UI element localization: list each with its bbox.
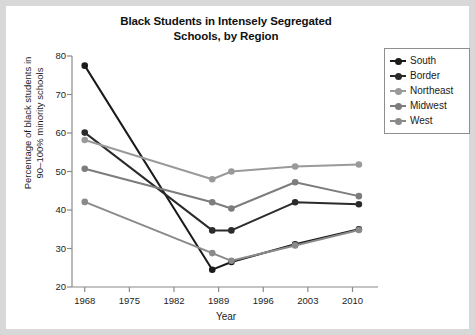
data-point xyxy=(292,179,299,186)
data-point xyxy=(356,161,363,168)
x-axis-tick-label: 1996 xyxy=(243,295,283,306)
data-point xyxy=(356,201,363,208)
y-axis-tick-label: 60 xyxy=(44,127,66,138)
data-point xyxy=(228,258,235,265)
data-point xyxy=(209,227,216,234)
legend-marker-icon xyxy=(390,85,406,97)
legend-item-label: Border xyxy=(410,70,440,82)
data-point xyxy=(292,199,299,206)
y-axis-label: Percentage of black students in 90–100% … xyxy=(22,33,46,213)
axes xyxy=(72,56,378,287)
data-point xyxy=(209,250,216,257)
x-axis-tick-label: 1989 xyxy=(199,295,239,306)
legend-marker-icon xyxy=(390,100,406,112)
y-axis-tick-label: 50 xyxy=(44,166,66,177)
legend-item-midwest[interactable]: Midwest xyxy=(390,99,465,113)
legend-item-label: West xyxy=(410,115,433,127)
x-axis-ticks xyxy=(85,287,353,292)
data-point xyxy=(292,163,299,170)
legend-item-label: Midwest xyxy=(410,100,447,112)
data-series-group xyxy=(81,62,362,273)
y-axis-tick-label: 20 xyxy=(44,281,66,292)
legend-item-south[interactable]: South xyxy=(390,54,465,68)
series-midwest xyxy=(81,166,362,212)
y-axis-tick-label: 30 xyxy=(44,243,66,254)
series-northeast xyxy=(81,137,362,183)
data-point xyxy=(81,137,88,144)
y-axis-ticks xyxy=(67,56,72,287)
chart-figure: Black Students in Intensely Segregated S… xyxy=(6,6,469,329)
x-axis-tick-label: 1982 xyxy=(154,295,194,306)
y-axis-tick-label: 40 xyxy=(44,204,66,215)
legend-item-northeast[interactable]: Northeast xyxy=(390,84,465,98)
legend-item-label: South xyxy=(410,55,436,67)
y-axis-label-line-2: 90–100% minority schools xyxy=(34,68,45,179)
data-point xyxy=(81,199,88,206)
legend-item-label: Northeast xyxy=(410,85,453,97)
x-axis-tick-label: 2010 xyxy=(333,295,373,306)
x-axis-label: Year xyxy=(66,311,386,322)
data-point xyxy=(209,176,216,183)
x-axis-tick-label: 1975 xyxy=(109,295,149,306)
data-point xyxy=(292,242,299,249)
data-point xyxy=(356,227,363,234)
legend-item-west[interactable]: West xyxy=(390,114,465,128)
series-line xyxy=(85,140,359,179)
series-south xyxy=(81,62,362,273)
x-axis-tick-label: 2003 xyxy=(288,295,328,306)
x-axis-tick-label: 1968 xyxy=(65,295,105,306)
chart-legend: SouthBorderNortheastMidwestWest xyxy=(384,48,470,134)
series-line xyxy=(85,133,359,231)
data-point xyxy=(209,266,216,273)
y-axis-tick-label: 70 xyxy=(44,89,66,100)
data-point xyxy=(81,129,88,136)
legend-marker-icon xyxy=(390,70,406,82)
data-point xyxy=(209,199,216,206)
y-axis-label-line-1: Percentage of black students in xyxy=(22,57,33,190)
data-point xyxy=(356,193,363,200)
data-point xyxy=(81,166,88,173)
legend-item-border[interactable]: Border xyxy=(390,69,465,83)
legend-marker-icon xyxy=(390,55,406,67)
data-point xyxy=(228,205,235,212)
legend-marker-icon xyxy=(390,115,406,127)
data-point xyxy=(228,168,235,175)
data-point xyxy=(81,62,88,69)
y-axis-tick-label: 80 xyxy=(44,50,66,61)
data-point xyxy=(228,227,235,234)
